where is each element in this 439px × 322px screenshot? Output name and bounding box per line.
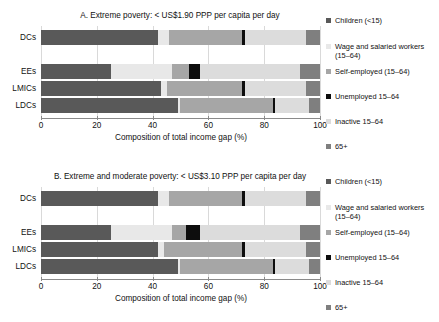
legend-swatch-icon xyxy=(326,44,331,49)
bar-row xyxy=(41,64,320,79)
bar-segment xyxy=(245,30,306,45)
category-label-ldcs: LDCs xyxy=(0,259,36,274)
bar-segment xyxy=(41,81,161,96)
legend-label: Unemployed 15–64 xyxy=(335,92,399,101)
legend-label: Wage and salaried workers (15–64) xyxy=(335,203,439,221)
bar-segment xyxy=(245,191,306,206)
bar-segment xyxy=(245,242,306,257)
bar-segment xyxy=(300,64,320,79)
bar-segment xyxy=(41,98,178,113)
category-label-ees: EEs xyxy=(0,64,36,79)
panel-b-plot-area xyxy=(41,187,320,279)
legend-item[interactable]: Self-employed (15–64) xyxy=(326,228,439,237)
legend-item[interactable]: Inactive 15–64 xyxy=(326,278,439,287)
bar-segment xyxy=(41,191,158,206)
bar-segment xyxy=(164,242,242,257)
bar-row xyxy=(41,81,320,96)
legend-swatch-icon xyxy=(326,94,331,99)
legend-swatch-icon xyxy=(326,230,331,235)
legend-swatch-icon xyxy=(326,144,331,149)
bar-segment xyxy=(158,30,169,45)
x-tick-label: 80 xyxy=(260,281,269,292)
legend-label: Unemployed 15–64 xyxy=(335,253,399,262)
stacked-bar-lmics xyxy=(41,242,320,257)
bar-segment xyxy=(306,191,320,206)
category-label-lmics: LMICs xyxy=(0,242,36,257)
bar-segment xyxy=(169,30,242,45)
legend-item[interactable]: Children (<15) xyxy=(326,177,439,186)
category-label-dcs: DCs xyxy=(0,30,36,45)
x-tick-label: 60 xyxy=(204,120,213,131)
bar-segment xyxy=(111,64,172,79)
category-label-lmics: LMICs xyxy=(0,81,36,96)
legend-item[interactable]: Unemployed 15–64 xyxy=(326,253,439,262)
bar-segment xyxy=(169,191,242,206)
legend-item[interactable]: Wage and salaried workers (15–64) xyxy=(326,42,439,60)
bar-segment xyxy=(200,225,300,240)
bar-segment xyxy=(180,98,272,113)
panel-a-legend: Children (<15)Wage and salaried workers … xyxy=(326,16,439,156)
legend-label: Inactive 15–64 xyxy=(335,278,383,287)
bar-segment xyxy=(111,225,172,240)
bar-segment xyxy=(172,225,186,240)
x-tick-label: 100 xyxy=(313,281,327,292)
bar-segment xyxy=(309,259,320,274)
legend-item[interactable]: Children (<15) xyxy=(326,16,439,25)
bar-segment xyxy=(41,242,158,257)
stacked-bar-ees xyxy=(41,225,320,240)
legend-swatch-icon xyxy=(326,179,331,184)
legend-swatch-icon xyxy=(326,255,331,260)
stacked-bar-dcs xyxy=(41,30,320,45)
legend-label: Self-employed (15–64) xyxy=(335,228,410,237)
gridline xyxy=(320,26,321,118)
bar-segment xyxy=(186,225,200,240)
x-tick-label: 80 xyxy=(260,120,269,131)
legend-item[interactable]: Inactive 15–64 xyxy=(326,117,439,126)
stacked-bar-ldcs xyxy=(41,98,320,113)
chart-panel-b: B. Extreme and moderate poverty: < US$3.… xyxy=(0,161,439,322)
panel-a-category-labels: DCsEEsLMICsLDCs xyxy=(0,26,38,118)
legend-label: Self-employed (15–64) xyxy=(335,67,410,76)
bar-segment xyxy=(275,259,308,274)
legend-item[interactable]: Wage and salaried workers (15–64) xyxy=(326,203,439,221)
bar-segment xyxy=(309,98,320,113)
legend-item[interactable]: 65+ xyxy=(326,303,439,312)
bar-row xyxy=(41,98,320,113)
legend-item[interactable]: Unemployed 15–64 xyxy=(326,92,439,101)
panel-b-x-ticks: 020406080100 xyxy=(41,281,321,293)
legend-swatch-icon xyxy=(326,18,331,23)
bar-row xyxy=(41,259,320,274)
bar-row xyxy=(41,30,320,45)
category-label-dcs: DCs xyxy=(0,191,36,206)
panel-b-legend: Children (<15)Wage and salaried workers … xyxy=(326,177,439,317)
legend-item[interactable]: 65+ xyxy=(326,142,439,151)
legend-label: Children (<15) xyxy=(335,177,382,186)
category-label-ldcs: LDCs xyxy=(0,98,36,113)
panel-a-title: A. Extreme poverty: < US$1.90 PPP per ca… xyxy=(38,11,322,21)
panel-a-axis-title: Composition of total income gap (%) xyxy=(41,133,321,142)
x-tick-label: 20 xyxy=(92,120,101,131)
legend-item[interactable]: Self-employed (15–64) xyxy=(326,67,439,76)
panel-a-plot-area xyxy=(41,26,320,118)
bar-row xyxy=(41,191,320,206)
bar-segment xyxy=(41,30,158,45)
panel-a-axis-line xyxy=(41,118,321,119)
legend-label: Children (<15) xyxy=(335,16,382,25)
bar-row xyxy=(41,242,320,257)
panel-b-axis-line xyxy=(41,279,321,280)
bar-segment xyxy=(300,225,320,240)
bar-segment xyxy=(189,64,200,79)
bar-segment xyxy=(306,81,320,96)
bar-segment xyxy=(172,64,189,79)
bar-segment xyxy=(158,191,169,206)
bar-segment xyxy=(245,81,306,96)
legend-swatch-icon xyxy=(326,205,331,210)
bar-segment xyxy=(41,225,111,240)
x-tick-label: 40 xyxy=(148,120,157,131)
stacked-bar-dcs xyxy=(41,191,320,206)
panel-b-title: B. Extreme and moderate poverty: < US$3.… xyxy=(38,172,322,182)
bar-segment xyxy=(306,242,320,257)
category-label-ees: EEs xyxy=(0,225,36,240)
x-tick-label: 0 xyxy=(39,281,44,292)
bar-segment xyxy=(306,30,320,45)
